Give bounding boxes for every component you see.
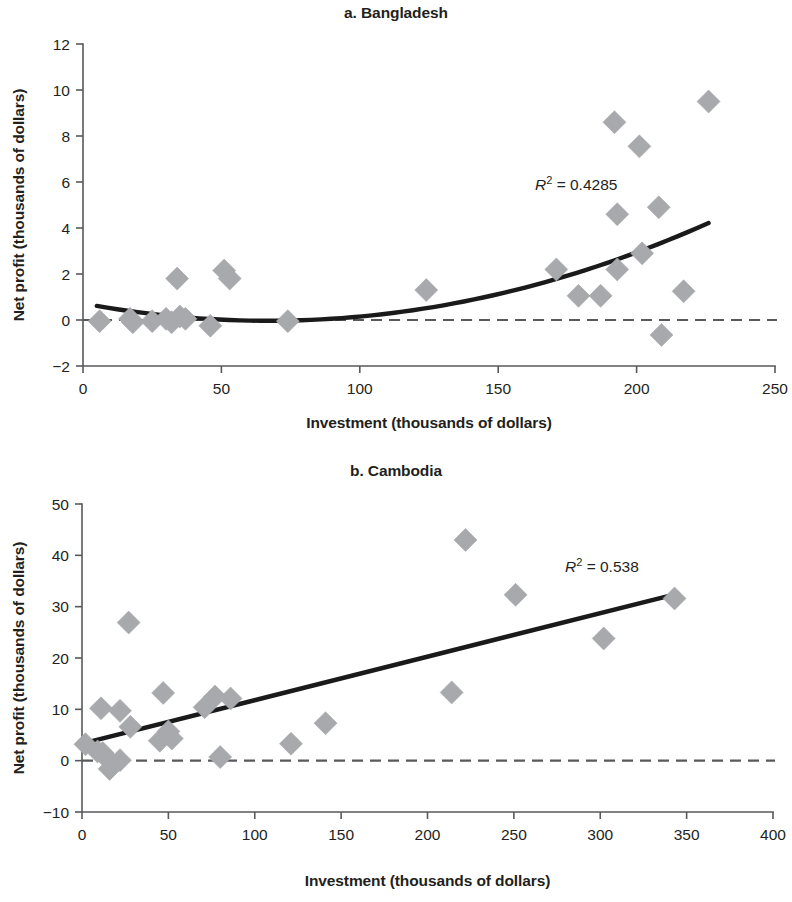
data-point-marker bbox=[589, 284, 612, 307]
x-axis-tick-label: 150 bbox=[485, 380, 511, 397]
data-point-marker bbox=[697, 90, 720, 113]
y-axis-tick-label: 10 bbox=[52, 701, 70, 718]
data-point-marker bbox=[314, 712, 337, 735]
data-point-marker bbox=[90, 697, 113, 720]
trend-line bbox=[82, 595, 671, 743]
scatter-plot-bangladesh: −2024681012050100150200250R2 = 0.4285Inv… bbox=[0, 0, 792, 450]
data-point-group bbox=[88, 90, 720, 346]
data-point-marker bbox=[663, 587, 686, 610]
data-point-marker bbox=[166, 267, 189, 290]
y-axis-tick-label: 30 bbox=[52, 598, 70, 615]
r-squared-equals: = bbox=[582, 558, 600, 575]
x-axis-tick-label: 400 bbox=[760, 826, 786, 843]
data-point-marker bbox=[280, 732, 303, 755]
r-squared-annotation: R2 = 0.4285 bbox=[535, 174, 617, 193]
chart-panel-cambodia: b. Cambodia −100102030405005010015020025… bbox=[0, 450, 792, 902]
y-axis-tick-label: 2 bbox=[61, 266, 70, 283]
x-axis-tick-label: 300 bbox=[587, 826, 613, 843]
data-point-marker bbox=[152, 681, 175, 704]
y-axis-tick-label: 20 bbox=[52, 650, 70, 667]
y-axis-tick-label: 40 bbox=[52, 547, 70, 564]
y-axis-tick-label: 50 bbox=[52, 496, 70, 513]
data-point-marker bbox=[647, 196, 670, 219]
x-axis-tick-label: 350 bbox=[674, 826, 700, 843]
data-point-marker bbox=[415, 279, 438, 302]
x-axis-tick-label: 250 bbox=[501, 826, 527, 843]
data-point-marker bbox=[504, 583, 527, 606]
y-axis-title: Net profit (thousands of dollars) bbox=[10, 89, 27, 322]
x-axis-tick-label: 50 bbox=[213, 380, 231, 397]
data-point-marker bbox=[209, 746, 232, 769]
r-squared-equals: = bbox=[552, 176, 570, 193]
data-point-marker bbox=[440, 681, 463, 704]
data-point-marker bbox=[592, 627, 615, 650]
y-axis-tick-label: 8 bbox=[61, 128, 70, 145]
y-axis-tick-label: 0 bbox=[61, 312, 70, 329]
y-axis-tick-label: 4 bbox=[61, 220, 70, 237]
r-squared-value: 0.4285 bbox=[570, 176, 617, 193]
y-axis-tick-label: 6 bbox=[61, 174, 70, 191]
data-point-marker bbox=[117, 611, 140, 634]
data-point-marker bbox=[606, 203, 629, 226]
x-axis-tick-label: 0 bbox=[78, 826, 87, 843]
scatter-plot-cambodia: −1001020304050050100150200250300350400R2… bbox=[0, 450, 792, 902]
x-axis-tick-label: 100 bbox=[242, 826, 268, 843]
x-axis-tick-label: 0 bbox=[79, 380, 88, 397]
y-axis-title: Net profit (thousands of dollars) bbox=[10, 542, 27, 775]
x-axis-tick-label: 50 bbox=[160, 826, 178, 843]
data-point-marker bbox=[672, 280, 695, 303]
y-axis-tick-label: 12 bbox=[53, 36, 70, 53]
r-squared-symbol: R bbox=[535, 176, 546, 193]
y-axis-tick-label: 0 bbox=[60, 752, 69, 769]
chart-panel-bangladesh: a. Bangladesh −2024681012050100150200250… bbox=[0, 0, 792, 450]
r-squared-symbol: R bbox=[565, 558, 576, 575]
data-point-marker bbox=[628, 135, 651, 158]
y-axis-tick-label: −2 bbox=[52, 358, 70, 375]
data-point-marker bbox=[650, 323, 673, 346]
x-axis-tick-label: 100 bbox=[347, 380, 373, 397]
x-axis-tick-label: 200 bbox=[624, 380, 650, 397]
data-point-marker bbox=[454, 528, 477, 551]
x-axis-tick-label: 200 bbox=[415, 826, 441, 843]
data-point-marker bbox=[276, 310, 299, 333]
data-point-marker bbox=[567, 284, 590, 307]
y-axis-tick-label: −10 bbox=[43, 804, 70, 821]
data-point-marker bbox=[603, 111, 626, 134]
data-point-marker bbox=[88, 310, 111, 333]
x-axis-title: Investment (thousands of dollars) bbox=[306, 414, 552, 431]
r-squared-value: 0.538 bbox=[600, 558, 639, 575]
x-axis-tick-label: 150 bbox=[328, 826, 354, 843]
x-axis-title: Investment (thousands of dollars) bbox=[305, 872, 551, 889]
x-axis-tick-label: 250 bbox=[762, 380, 788, 397]
r-squared-annotation: R2 = 0.538 bbox=[565, 556, 639, 575]
y-axis-tick-label: 10 bbox=[53, 82, 71, 99]
